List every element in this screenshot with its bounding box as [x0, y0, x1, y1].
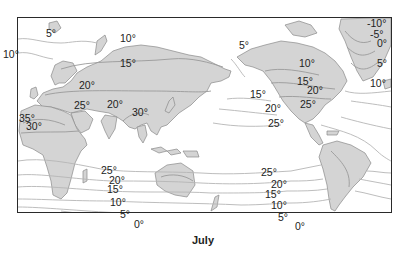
isotherm-label: 25° — [300, 99, 316, 110]
isotherm-label: 15° — [107, 184, 123, 195]
isotherm-label: 0° — [295, 221, 305, 232]
isotherm-label: 25° — [268, 118, 284, 129]
isotherm-20-satlantic — [367, 171, 391, 173]
isotherm-label: 25° — [261, 167, 277, 178]
isotherm-label: -10° — [367, 18, 386, 29]
isotherm-label: 20° — [265, 103, 281, 114]
isotherm-label: 10° — [271, 200, 287, 211]
isotherm-0-south — [61, 211, 391, 212]
india — [101, 115, 117, 139]
indochina — [137, 125, 147, 143]
isotherm-label: 30° — [26, 121, 42, 132]
isotherm-label: 5° — [377, 58, 387, 69]
isotherm-label: 10° — [110, 197, 126, 208]
madagascar — [83, 169, 87, 183]
isotherm-label: 10° — [370, 78, 386, 89]
isotherm-label: 15° — [265, 189, 281, 200]
central-america — [305, 123, 323, 145]
north-america — [237, 41, 347, 123]
novaya-zemlya — [95, 35, 107, 55]
isotherm-15-natlantic — [351, 101, 391, 107]
british-isles — [30, 87, 38, 99]
new-guinea — [183, 151, 199, 157]
isotherm-label: 5° — [46, 28, 56, 39]
arctic-archipelago — [285, 21, 317, 37]
isotherm-label: 5° — [278, 212, 288, 223]
isotherm-label: 10° — [299, 58, 315, 69]
isotherm-15-satlantic — [359, 179, 391, 185]
isotherm-10-satlantic — [355, 191, 391, 199]
isotherm-10-atlantic — [18, 53, 53, 59]
isotherm-label: 5° — [239, 40, 249, 51]
isotherm-label: 10° — [120, 33, 136, 44]
isotherm-10-natlantic — [345, 91, 391, 93]
isotherm-label: 15° — [250, 89, 266, 100]
world-map — [18, 18, 391, 212]
caribbean — [327, 131, 339, 135]
isotherm-label: 10° — [3, 49, 19, 60]
map-frame — [17, 17, 392, 213]
isotherm-label: 25° — [74, 100, 90, 111]
isotherm-label: 20° — [107, 99, 123, 110]
new-zealand — [211, 195, 219, 211]
map-caption: July — [0, 234, 406, 246]
isotherm-label: 20° — [307, 85, 323, 96]
south-america — [319, 141, 371, 211]
isotherm-20-natlantic — [341, 117, 391, 129]
isotherm-label: 5° — [120, 209, 130, 220]
indonesia-1 — [151, 147, 167, 153]
isotherm-label: 0° — [377, 38, 387, 49]
isotherm-5-arctic — [18, 39, 97, 43]
isotherm-label: 20° — [79, 80, 95, 91]
isotherm-label: 15° — [120, 58, 136, 69]
isotherm-label: 30° — [132, 107, 148, 118]
indonesia-2 — [167, 149, 181, 155]
isotherm-label: 0° — [134, 219, 144, 230]
landmasses — [19, 18, 391, 211]
